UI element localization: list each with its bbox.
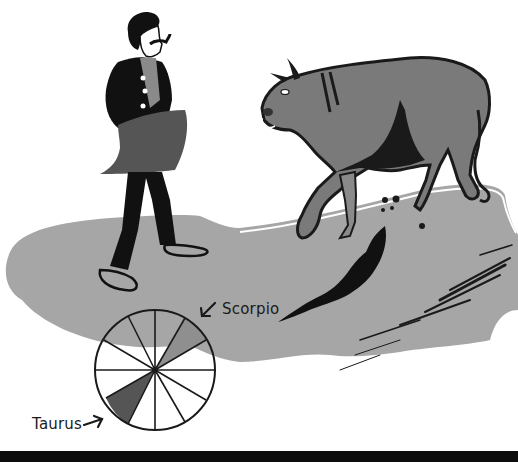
taurus-segment: [106, 370, 155, 424]
bottom-border-strip: [0, 451, 518, 462]
ground-shape: [6, 184, 518, 362]
illustration-stage: Scorpio Taurus: [0, 0, 518, 462]
bull-eye: [281, 90, 289, 95]
scorpio-label: Scorpio: [222, 300, 279, 318]
taurus-arrow-icon: [84, 416, 102, 427]
illustration-canvas: [0, 0, 518, 462]
bull-nose: [263, 108, 273, 116]
taurus-label: Taurus: [32, 415, 82, 433]
zodiac-wheel: [95, 310, 215, 430]
wheel-hub: [152, 367, 158, 373]
